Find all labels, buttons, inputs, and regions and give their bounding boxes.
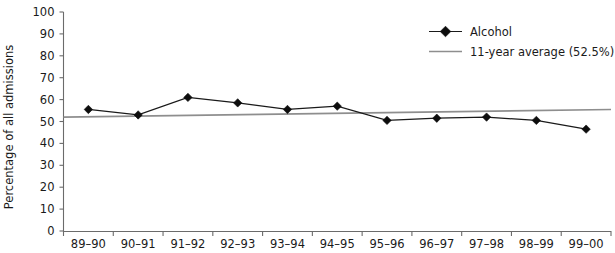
line-chart: Percentage of all admissions 01020304050… xyxy=(0,0,615,253)
data-point-marker xyxy=(333,102,341,110)
x-tick-label: 91–92 xyxy=(170,237,205,251)
y-tick-label: 90 xyxy=(40,27,55,41)
y-axis-ticks: 0102030405060708090100 xyxy=(33,5,64,238)
data-point-marker xyxy=(582,125,590,133)
data-point-marker xyxy=(433,114,441,122)
y-tick-label: 10 xyxy=(40,202,55,216)
x-tick-label: 92–93 xyxy=(220,237,255,251)
y-tick-label: 30 xyxy=(40,158,55,172)
x-tick-label: 93–94 xyxy=(270,237,305,251)
legend-label-alcohol: Alcohol xyxy=(470,25,512,39)
chart-legend: Alcohol 11-year average (52.5%) xyxy=(429,25,614,59)
y-tick-label: 0 xyxy=(47,224,54,238)
y-tick-label: 60 xyxy=(40,93,55,107)
y-tick-label: 20 xyxy=(40,180,55,194)
y-tick-label: 50 xyxy=(40,115,55,129)
x-tick-label: 94–95 xyxy=(320,237,355,251)
y-tick-label: 40 xyxy=(40,136,55,150)
data-point-marker xyxy=(383,116,391,124)
y-tick-label: 70 xyxy=(40,71,55,85)
x-tick-label: 97–98 xyxy=(469,237,504,251)
x-tick-label: 96–97 xyxy=(419,237,454,251)
y-tick-label: 80 xyxy=(40,49,55,63)
data-point-marker xyxy=(134,111,142,119)
data-point-marker xyxy=(482,113,490,121)
x-tick-label: 99–00 xyxy=(569,237,604,251)
legend-label-average: 11-year average (52.5%) xyxy=(470,45,614,59)
x-tick-label: 90–91 xyxy=(121,237,156,251)
x-tick-label: 89–90 xyxy=(71,237,106,251)
data-point-marker xyxy=(84,105,92,113)
y-axis-title: Percentage of all admissions xyxy=(2,45,16,209)
x-axis-ticks: 89–9090–9191–9292–9393–9494–9595–9696–97… xyxy=(64,231,612,251)
x-tick-label: 98–99 xyxy=(519,237,554,251)
legend-swatch-alcohol-marker xyxy=(440,26,451,37)
chart-container: Percentage of all admissions 01020304050… xyxy=(0,0,615,253)
data-point-marker xyxy=(184,93,192,101)
y-tick-label: 100 xyxy=(33,5,55,19)
data-point-marker xyxy=(532,116,540,124)
data-point-marker xyxy=(234,99,242,107)
data-point-marker xyxy=(283,105,291,113)
x-tick-label: 95–96 xyxy=(370,237,405,251)
